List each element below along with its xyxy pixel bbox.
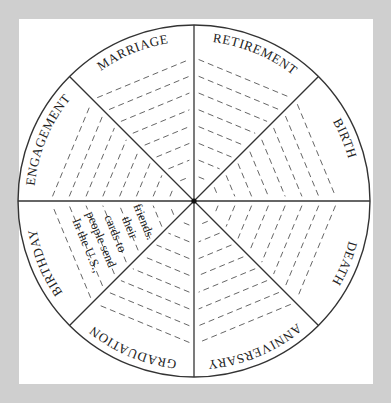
writing-line-birth[interactable] xyxy=(297,104,335,196)
writing-line-graduation[interactable] xyxy=(157,245,190,259)
writing-line-death[interactable] xyxy=(226,206,235,227)
writing-line-death[interactable] xyxy=(285,206,318,286)
writing-line-anniversary[interactable] xyxy=(199,221,208,225)
writing-line-anniversary[interactable] xyxy=(199,257,244,276)
writing-line-graduation[interactable] xyxy=(109,292,189,325)
writing-line-birth[interactable] xyxy=(226,175,235,196)
writing-line-marriage[interactable] xyxy=(168,160,189,169)
writing-line-marriage[interactable] xyxy=(109,76,189,109)
segment-label-graduation: GRADUATION xyxy=(86,323,177,372)
center-dot xyxy=(191,198,196,203)
segment-label-birth: BIRTH xyxy=(330,116,360,161)
writing-line-retirement[interactable] xyxy=(199,127,244,146)
writing-line-anniversary[interactable] xyxy=(199,281,267,309)
writing-line-graduation[interactable] xyxy=(168,233,189,242)
writing-line-engagement[interactable] xyxy=(153,175,162,196)
writing-line-engagement[interactable] xyxy=(120,152,139,197)
divider-anniversary xyxy=(194,201,318,325)
writing-line-marriage[interactable] xyxy=(145,127,190,146)
writing-line-retirement[interactable] xyxy=(199,143,232,157)
birthday-handwritten-note: In the U.S.,people sendcards totheirfrie… xyxy=(69,202,157,275)
writing-line-death[interactable] xyxy=(274,206,302,274)
writing-line-engagement[interactable] xyxy=(69,116,102,196)
segment-label-anniversary: ANNIVERSARY xyxy=(207,321,305,373)
segment-label-retirement: RETIREMENT xyxy=(212,30,300,78)
writing-line-birthday[interactable] xyxy=(170,206,174,215)
segment-label-death: DEATH xyxy=(329,240,361,289)
writing-line-birth[interactable] xyxy=(250,152,269,197)
divider-marriage xyxy=(70,77,194,201)
writing-line-graduation[interactable] xyxy=(180,221,189,225)
writing-line-engagement[interactable] xyxy=(86,128,114,196)
writing-line-birth[interactable] xyxy=(285,116,318,196)
segment-label-marriage: MARRIAGE xyxy=(94,31,169,73)
writing-line-birth[interactable] xyxy=(238,164,252,197)
writing-line-retirement[interactable] xyxy=(199,76,279,109)
writing-line-retirement[interactable] xyxy=(199,160,220,169)
writing-line-anniversary[interactable] xyxy=(199,233,220,242)
writing-line-retirement[interactable] xyxy=(199,177,208,181)
writing-line-graduation[interactable] xyxy=(145,257,190,276)
writing-line-death[interactable] xyxy=(297,206,335,298)
writing-line-marriage[interactable] xyxy=(121,93,189,121)
writing-line-engagement[interactable] xyxy=(170,187,174,196)
writing-line-anniversary[interactable] xyxy=(199,245,232,259)
writing-line-marriage[interactable] xyxy=(157,143,190,157)
writing-line-death[interactable] xyxy=(238,206,252,239)
occasions-wheel: RETIREMENTBIRTHDEATHANNIVERSARYGRADUATIO… xyxy=(0,0,391,403)
writing-line-anniversary[interactable] xyxy=(199,292,279,325)
writing-line-retirement[interactable] xyxy=(199,93,267,121)
divider-birth xyxy=(194,77,318,201)
writing-line-graduation[interactable] xyxy=(121,281,189,309)
writing-line-death[interactable] xyxy=(250,206,269,251)
writing-line-marriage[interactable] xyxy=(180,177,189,181)
writing-line-engagement[interactable] xyxy=(136,164,150,197)
segment-label-birthday: BIRTHDAY xyxy=(25,228,66,300)
writing-line-birth[interactable] xyxy=(274,128,302,196)
writing-line-birth[interactable] xyxy=(214,187,218,196)
writing-line-birthday[interactable] xyxy=(153,206,162,227)
writing-line-death[interactable] xyxy=(214,206,218,215)
segment-label-engagement: ENGAGEMENT xyxy=(23,91,74,187)
